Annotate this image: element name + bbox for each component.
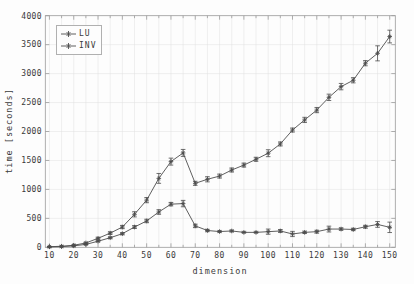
y-axis-label: time [seconds] <box>4 88 14 174</box>
lu-series-marker-icon <box>61 30 76 38</box>
legend-item-inv: INV <box>61 40 96 51</box>
x-tick-labels: 102030405060708090100110120130140150 <box>44 251 398 260</box>
legend: LU INV <box>56 25 102 55</box>
x-tick-label: 20 <box>68 251 79 260</box>
y-tick-label: 2000 <box>21 127 41 136</box>
x-tick-label: 10 <box>44 251 55 260</box>
x-tick-label: 50 <box>141 251 152 260</box>
x-tick-label: 80 <box>214 251 225 260</box>
legend-label-inv: INV <box>79 42 96 50</box>
timing-chart-figure: 1020304050607080901001101201301401500500… <box>0 0 414 284</box>
y-tick-label: 2500 <box>21 98 41 107</box>
x-tick-label: 130 <box>333 251 349 260</box>
x-axis-label: dimension <box>192 266 247 276</box>
y-tick-label: 4000 <box>21 12 41 21</box>
x-tick-label: 100 <box>260 251 276 260</box>
x-tick-label: 140 <box>357 251 373 260</box>
y-tick-label: 1000 <box>21 185 41 194</box>
x-tick-label: 40 <box>117 251 128 260</box>
y-tick-label: 3500 <box>21 40 41 49</box>
x-tick-label: 60 <box>166 251 177 260</box>
inv-series-marker-icon <box>61 42 76 50</box>
legend-item-lu: LU <box>61 28 96 39</box>
x-tick-label: 120 <box>309 251 325 260</box>
x-tick-label: 70 <box>190 251 201 260</box>
x-tick-label: 150 <box>382 251 398 260</box>
y-tick-label: 3000 <box>21 69 41 78</box>
y-tick-label: 1500 <box>21 156 41 165</box>
x-tick-label: 110 <box>285 251 301 260</box>
x-tick-label: 90 <box>239 251 250 260</box>
x-tick-label: 30 <box>93 251 104 260</box>
y-tick-label: 500 <box>26 214 41 223</box>
y-tick-label: 0 <box>37 243 42 252</box>
legend-label-lu: LU <box>79 30 91 38</box>
